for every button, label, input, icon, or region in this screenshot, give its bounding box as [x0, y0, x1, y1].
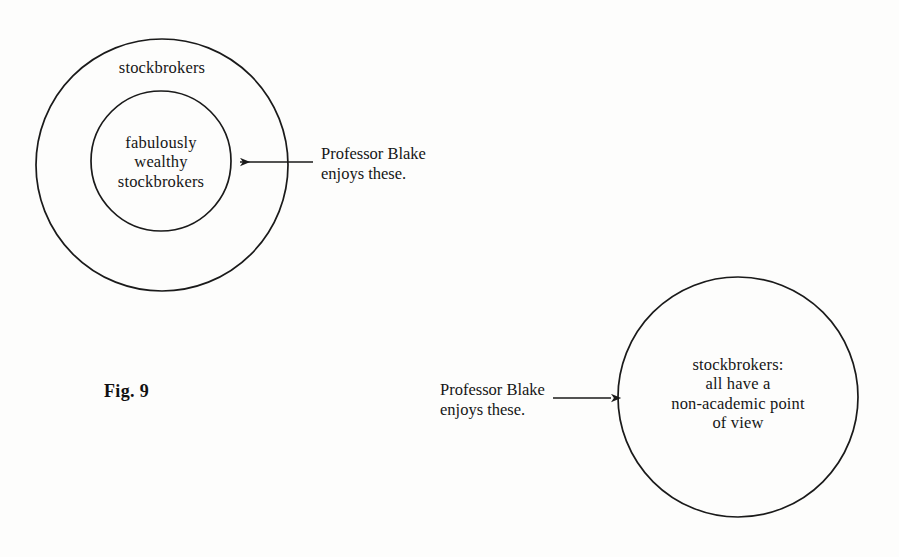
annotation-left-text: Professor Blake enjoys these. — [321, 144, 501, 184]
figure-canvas — [0, 0, 899, 557]
figure-caption: Fig. 9 — [104, 381, 149, 402]
inner-set-label: fabulously wealthy stockbrokers — [91, 133, 231, 191]
right-set-label: stockbrokers: all have a non-academic po… — [630, 355, 846, 433]
annotation-right-text: Professor Blake enjoys these. — [440, 380, 620, 420]
outer-set-label: stockbrokers — [36, 58, 288, 77]
